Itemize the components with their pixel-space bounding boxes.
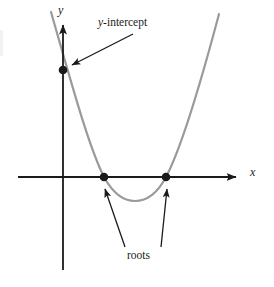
- edge-artifact: [0, 30, 3, 56]
- y-intercept-point: [59, 66, 68, 75]
- x-axis-label: x: [250, 166, 255, 178]
- parabola-curve: [51, 12, 219, 201]
- y-intercept-label-suffix: -intercept: [103, 16, 147, 28]
- quadratic-graph-figure: y x y-intercept roots: [0, 0, 274, 287]
- graph-canvas: [0, 0, 274, 287]
- y-intercept-label: y-intercept: [98, 17, 147, 29]
- y-intercept-arrow: [72, 34, 133, 65]
- root-right-point: [162, 173, 171, 182]
- root-left-point: [100, 173, 109, 182]
- root-right-arrow: [161, 189, 167, 247]
- roots-label: roots: [127, 250, 150, 262]
- y-axis-label: y: [58, 4, 63, 16]
